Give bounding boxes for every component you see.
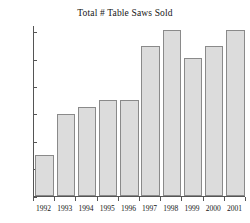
x-axis-tick-label: 1997 (139, 204, 160, 213)
x-axis-tick-label: 2000 (203, 204, 224, 213)
x-axis-tick (75, 197, 76, 201)
x-axis-tick (33, 197, 34, 201)
bar (141, 46, 160, 196)
x-axis-tick (245, 197, 246, 201)
x-axis-tick (139, 197, 140, 201)
x-axis-tick-label: 2001 (224, 204, 245, 213)
x-axis-tick (203, 197, 204, 201)
bar-chart: Total # Table Saws Sold 020406080100120 … (0, 0, 250, 223)
chart-title: Total # Table Saws Sold (0, 8, 250, 18)
x-axis-tick (160, 197, 161, 201)
x-axis-tick-label: 1998 (160, 204, 181, 213)
x-axis-tick (224, 197, 225, 201)
bar (35, 155, 54, 196)
x-axis-tick-label: 1999 (181, 204, 202, 213)
x-axis-tick (181, 197, 182, 201)
y-axis-tick (34, 114, 37, 115)
bar (120, 100, 139, 196)
y-axis-tick (34, 87, 37, 88)
x-axis-tick (118, 197, 119, 201)
y-axis-tick (34, 60, 37, 61)
x-axis-tick-label: 1993 (54, 204, 75, 213)
bar (78, 107, 97, 196)
x-axis-tick-label: 1996 (118, 204, 139, 213)
y-axis-tick (34, 197, 37, 198)
x-axis-tick-label: 1992 (33, 204, 54, 213)
plot-area: 020406080100120 199219931994199519961997… (33, 26, 245, 197)
bar (163, 30, 182, 196)
bar (184, 58, 203, 196)
y-axis-tick (34, 142, 37, 143)
bar (99, 100, 118, 196)
bar (205, 46, 224, 196)
x-axis-tick-label: 1995 (97, 204, 118, 213)
y-axis-line (33, 26, 34, 197)
bar (226, 30, 245, 196)
x-axis-tick (97, 197, 98, 201)
bar (57, 114, 76, 196)
x-axis-tick (54, 197, 55, 201)
x-axis-tick-label: 1994 (75, 204, 96, 213)
y-axis-tick (34, 32, 37, 33)
